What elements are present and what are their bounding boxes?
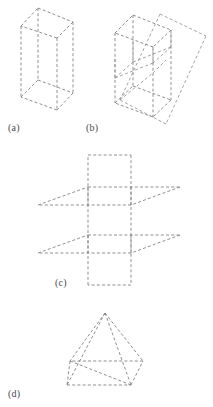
caption-c: (c)	[55, 277, 67, 288]
caption-a: (a)	[8, 122, 20, 133]
figure-c-planes	[38, 155, 180, 285]
figure-b-cube-plane	[115, 14, 206, 124]
figure-canvas	[0, 0, 213, 407]
figure-a-cube	[21, 8, 73, 110]
figure-d-pyramid	[67, 313, 143, 385]
caption-b: (b)	[86, 122, 98, 133]
figure-sheet: (a) (b) (c) (d)	[0, 0, 213, 407]
caption-d: (d)	[8, 388, 20, 399]
